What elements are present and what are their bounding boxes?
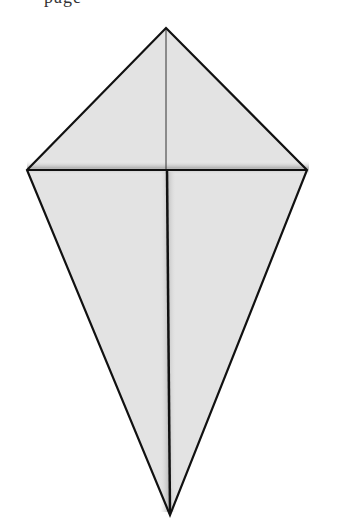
kite-diagram bbox=[0, 0, 342, 530]
